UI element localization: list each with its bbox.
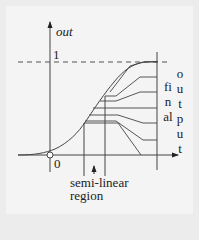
origin-label: 0 [54,157,61,170]
y-axis-label: out [56,25,73,38]
region-label-line2: region [70,189,128,202]
output-label: output [175,66,185,156]
semi-linear-region-label: semi-linear region [70,176,128,202]
y-tick-one: 1 [53,48,60,61]
final-label: final [163,79,173,124]
origin-marker [47,152,53,158]
